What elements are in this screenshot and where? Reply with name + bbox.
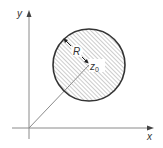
- x-axis-label: x: [146, 131, 153, 142]
- radius-label: R: [73, 46, 80, 57]
- disk-diagram: R z0 y x: [0, 0, 163, 148]
- y-axis-arrow-icon: [27, 10, 32, 17]
- x-axis: [12, 126, 154, 131]
- y-axis: [27, 10, 32, 139]
- x-axis-arrow-icon: [147, 126, 154, 131]
- y-axis-label: y: [16, 8, 23, 19]
